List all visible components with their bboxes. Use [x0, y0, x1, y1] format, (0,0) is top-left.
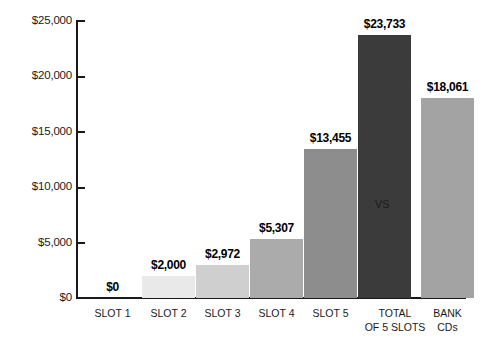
bar-rect-total: [358, 35, 411, 298]
bar-value-slot-4: $5,307: [259, 221, 294, 235]
bar-slot-4[interactable]: $5,307: [250, 21, 303, 298]
bar-value-slot-5: $13,455: [310, 131, 351, 145]
y-tick-label-20000: $20,000: [6, 69, 72, 81]
x-label-total-line1: TOTAL: [379, 307, 412, 319]
x-label-slot-1-line1: SLOT 1: [95, 307, 131, 319]
y-tick-label-10000: $10,000: [6, 180, 72, 192]
x-label-slot-5-line1: SLOT 5: [313, 307, 349, 319]
x-label-slot-2: SLOT 2: [142, 306, 195, 320]
bar-slot-5[interactable]: $13,455: [304, 21, 357, 298]
y-tick-label-15000: $15,000: [6, 125, 72, 137]
x-label-slot-3: SLOT 3: [196, 306, 249, 320]
x-label-bank-cds-line1: BANK: [433, 307, 462, 319]
bar-value-slot-3: $2,972: [205, 247, 240, 261]
bar-rect-slot-3: [196, 265, 249, 298]
bar-slot-2[interactable]: $2,000: [142, 21, 195, 298]
x-label-slot-1: SLOT 1: [86, 306, 139, 320]
vs-annotation: VS: [375, 198, 389, 210]
y-tick-label-5000: $5,000: [6, 236, 72, 248]
bar-chart: $25,000 $20,000 $15,000 $10,000 $5,000 $…: [0, 0, 486, 346]
bar-rect-slot-5: [304, 149, 357, 298]
x-label-slot-3-line1: SLOT 3: [205, 307, 241, 319]
bar-slot-3[interactable]: $2,972: [196, 21, 249, 298]
bar-rect-slot-4: [250, 239, 303, 298]
bar-rect-slot-2: [142, 276, 195, 298]
bar-value-slot-1: $0: [106, 280, 119, 294]
x-label-bank-cds: BANK CDs: [421, 306, 474, 334]
bar-value-total: $23,733: [364, 17, 405, 31]
bar-value-slot-2: $2,000: [151, 258, 186, 272]
bar-slot-bank-cds[interactable]: $18,061: [421, 21, 474, 298]
x-label-bank-cds-line2: CDs: [421, 320, 474, 334]
y-tick-label-0: $0: [6, 291, 72, 303]
plot-area: $0 $2,000 $2,972 $5,307 $13,455 $23,733: [78, 21, 466, 298]
bar-slot-total[interactable]: $23,733: [358, 21, 411, 298]
y-tick-label-25000: $25,000: [6, 14, 72, 26]
x-label-slot-4-line1: SLOT 4: [259, 307, 295, 319]
bar-rect-bank-cds: [421, 98, 474, 298]
bar-slot-1[interactable]: $0: [86, 21, 139, 298]
x-label-slot-4: SLOT 4: [250, 306, 303, 320]
bar-value-bank-cds: $18,061: [427, 80, 468, 94]
x-label-slot-2-line1: SLOT 2: [151, 307, 187, 319]
